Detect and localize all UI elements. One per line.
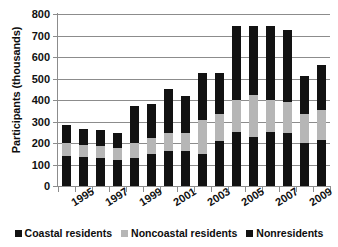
bar-segment-coastal-residents: [215, 141, 224, 186]
bar-2005: [249, 26, 258, 186]
bar-1998: [130, 106, 139, 186]
bar-segment-coastal-residents: [62, 156, 71, 186]
square-marker-icon: [15, 230, 22, 237]
bar-segment-noncoastal-residents: [317, 110, 326, 140]
bar-segment-coastal-residents: [79, 157, 88, 186]
y-axis-tick-mark: [53, 165, 58, 166]
bar-segment-coastal-residents: [130, 158, 139, 186]
bar-segment-coastal-residents: [96, 158, 105, 186]
y-axis-tick-label: 100: [10, 160, 50, 171]
gridline: [58, 14, 330, 15]
bar-segment-coastal-residents: [283, 133, 292, 186]
square-marker-icon: [246, 230, 253, 237]
bar-segment-noncoastal-residents: [198, 120, 207, 153]
bar-segment-coastal-residents: [164, 151, 173, 186]
y-axis-tick-label: 300: [10, 117, 50, 128]
bar-segment-nonresidents: [96, 130, 105, 146]
bar-2004: [232, 26, 241, 186]
legend-item-coastal-residents: Coastal residents: [15, 227, 113, 239]
bar-1994: [62, 125, 71, 186]
bar-segment-coastal-residents: [232, 132, 241, 186]
bar-segment-coastal-residents: [266, 132, 275, 186]
bar-segment-noncoastal-residents: [96, 146, 105, 158]
y-axis-tick-mark: [53, 57, 58, 58]
bar-1999: [147, 104, 156, 186]
bar-2009: [317, 65, 326, 186]
bar-segment-nonresidents: [130, 106, 139, 143]
bar-segment-nonresidents: [249, 26, 258, 95]
bar-segment-coastal-residents: [198, 154, 207, 186]
bar-segment-noncoastal-residents: [300, 114, 309, 143]
bar-2007: [283, 30, 292, 186]
bar-segment-nonresidents: [232, 26, 241, 100]
y-axis-tick-mark: [53, 14, 58, 15]
bar-1995: [79, 129, 88, 186]
bar-segment-noncoastal-residents: [62, 143, 71, 156]
y-axis-tick-label: 200: [10, 138, 50, 149]
bar-segment-noncoastal-residents: [249, 95, 258, 137]
bar-2008: [300, 76, 309, 186]
bar-segment-nonresidents: [62, 125, 71, 143]
legend-item-label: Coastal residents: [25, 227, 113, 239]
bar-segment-coastal-residents: [147, 154, 156, 186]
bar-segment-noncoastal-residents: [215, 114, 224, 141]
bar-segment-noncoastal-residents: [130, 143, 139, 158]
legend-item-label: Nonresidents: [256, 227, 323, 239]
bar-segment-nonresidents: [317, 65, 326, 110]
y-axis-tick-label: 600: [10, 52, 50, 63]
bar-2001: [181, 96, 190, 186]
legend-item-label: Noncoastal residents: [131, 227, 237, 239]
bar-2003: [215, 73, 224, 186]
bar-2006: [266, 26, 275, 186]
bar-segment-coastal-residents: [317, 140, 326, 186]
y-axis-tick-label: 700: [10, 31, 50, 42]
bar-segment-noncoastal-residents: [147, 138, 156, 154]
bar-segment-noncoastal-residents: [232, 100, 241, 132]
y-axis-tick-mark: [53, 143, 58, 144]
bar-segment-coastal-residents: [181, 151, 190, 186]
y-axis-tick-mark: [53, 79, 58, 80]
bar-segment-noncoastal-residents: [164, 133, 173, 150]
bar-segment-nonresidents: [215, 73, 224, 114]
bar-segment-nonresidents: [79, 129, 88, 145]
bar-2002: [198, 73, 207, 186]
y-axis-tick-mark: [53, 36, 58, 37]
legend-item-nonresidents: Nonresidents: [246, 227, 323, 239]
bar-segment-nonresidents: [283, 30, 292, 102]
plot-area: [58, 14, 330, 186]
bar-segment-nonresidents: [113, 133, 122, 148]
bar-segment-noncoastal-residents: [266, 100, 275, 132]
y-axis-tick-label: 800: [10, 9, 50, 20]
bar-2000: [164, 89, 173, 186]
y-axis-tick-mark: [53, 186, 58, 187]
legend-item-noncoastal-residents: Noncoastal residents: [121, 227, 237, 239]
y-axis-tick-label: 400: [10, 95, 50, 106]
bar-segment-nonresidents: [164, 89, 173, 133]
bar-segment-nonresidents: [147, 104, 156, 137]
y-axis-tick-mark: [53, 122, 58, 123]
bar-segment-noncoastal-residents: [181, 133, 190, 150]
bar-segment-coastal-residents: [249, 137, 258, 186]
bar-segment-coastal-residents: [113, 160, 122, 186]
bar-1996: [96, 130, 105, 186]
y-axis-tick-label: 500: [10, 74, 50, 85]
x-axis-tick-labels: 19951997199920012003200520072009: [0, 190, 338, 224]
bar-segment-noncoastal-residents: [79, 145, 88, 157]
square-marker-icon: [121, 230, 128, 237]
bar-segment-nonresidents: [198, 73, 207, 120]
bar-segment-nonresidents: [266, 26, 275, 100]
chart-legend: Coastal residentsNoncoastal residentsNon…: [0, 227, 338, 239]
bar-segment-nonresidents: [181, 96, 190, 134]
bar-segment-noncoastal-residents: [283, 102, 292, 133]
bar-segment-noncoastal-residents: [113, 148, 122, 160]
bar-1997: [113, 133, 122, 186]
bar-segment-coastal-residents: [300, 143, 309, 186]
bar-segment-nonresidents: [300, 76, 309, 114]
stacked-bar-chart: Participants (thousands) 800700600500400…: [0, 0, 338, 247]
y-axis-tick-mark: [53, 100, 58, 101]
